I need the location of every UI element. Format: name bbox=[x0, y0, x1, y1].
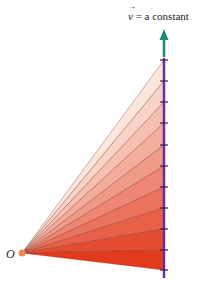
velocity-symbol: v bbox=[128, 10, 133, 22]
velocity-arrow-icon bbox=[160, 29, 169, 57]
origin-label: O bbox=[6, 247, 15, 262]
velocity-constant-text: a constant bbox=[145, 10, 189, 22]
diagram-canvas bbox=[0, 0, 210, 287]
origin-dot bbox=[19, 250, 26, 257]
area-fan-triangles bbox=[22, 60, 164, 270]
equals-sign: = bbox=[133, 10, 145, 22]
area-triangle bbox=[22, 250, 164, 270]
velocity-label: v = a constant bbox=[128, 10, 189, 22]
